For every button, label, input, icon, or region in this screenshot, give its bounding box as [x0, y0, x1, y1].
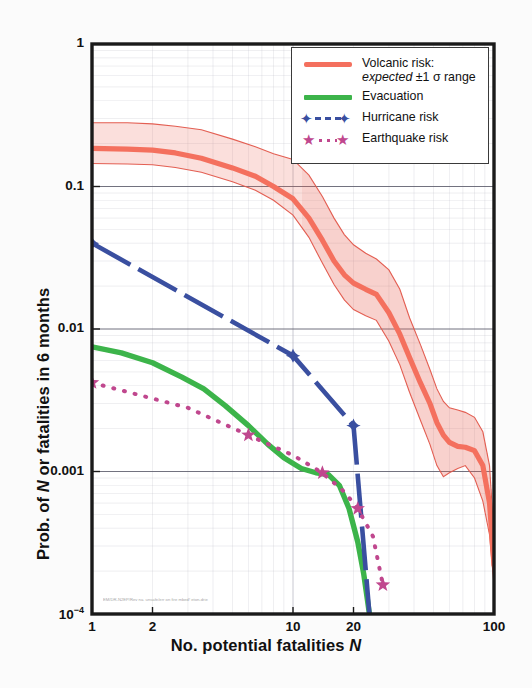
- x-axis-title-var: N: [349, 636, 361, 654]
- magenta-star-marker-icon-right: ★: [336, 132, 349, 147]
- y-axis-title-pre: Prob. of: [34, 492, 52, 560]
- legend-key-evacuation: [300, 89, 356, 106]
- y-tick-label-3: 0.001: [32, 463, 84, 478]
- chart-footnote-annotation: EM/DR-N2EP/Rev na. unsafe/err on fire mb…: [103, 597, 303, 606]
- legend-label-evacuation: Evacuation: [362, 89, 423, 104]
- legend-item-hurricane[interactable]: ✦ ✦ Hurricane risk: [300, 110, 482, 127]
- risk-exceedance-chart: No. potential fatalities N Prob. of N or…: [0, 0, 532, 688]
- x-tick-label-100: 100: [472, 619, 516, 634]
- y-tick-label-2: 0.01: [32, 320, 84, 335]
- x-tick-label-20: 20: [332, 619, 376, 634]
- blue-star-marker-icon-right: ✦: [338, 111, 351, 126]
- magenta-dotted-line-icon: [319, 139, 337, 142]
- legend-volcanic-line1: Volcanic risk:: [362, 56, 434, 70]
- legend-label-earthquake: Earthquake risk: [362, 131, 448, 146]
- legend-volcanic-expected: expected: [362, 70, 412, 84]
- legend-key-earthquake: ★ ★: [300, 131, 356, 148]
- y-tick-label-0: 1: [32, 35, 84, 50]
- y-axis-title-post: or fatalities in 6 months: [34, 288, 52, 480]
- legend-key-volcanic: [300, 56, 356, 73]
- legend-volcanic-range: ±1 σ range: [416, 70, 476, 84]
- legend-item-evacuation[interactable]: Evacuation: [300, 89, 482, 106]
- y-axis-title-var: N: [34, 480, 52, 492]
- green-line-swatch-icon: [304, 95, 352, 100]
- legend-key-hurricane: ✦ ✦: [300, 110, 356, 127]
- chart-legend: Volcanic risk: expected ±1 σ range Evacu…: [291, 47, 489, 164]
- y-tick-label-4: 10−4: [32, 605, 84, 622]
- legend-item-earthquake[interactable]: ★ ★ Earthquake risk: [300, 131, 482, 148]
- legend-label-volcanic: Volcanic risk: expected ±1 σ range: [362, 56, 476, 85]
- blue-star-marker-icon-left: ✦: [300, 111, 313, 126]
- y-tick-label-1: 0.1: [32, 178, 84, 193]
- x-axis-title: No. potential fatalities N: [0, 636, 532, 655]
- legend-label-hurricane: Hurricane risk: [362, 110, 438, 125]
- x-tick-label-2: 2: [131, 619, 175, 634]
- red-line-swatch-icon: [304, 62, 352, 67]
- magenta-star-marker-icon-left: ★: [302, 132, 315, 147]
- legend-item-volcanic[interactable]: Volcanic risk: expected ±1 σ range: [300, 56, 482, 85]
- x-axis-title-text: No. potential fatalities: [171, 636, 350, 654]
- x-tick-label-10: 10: [271, 619, 315, 634]
